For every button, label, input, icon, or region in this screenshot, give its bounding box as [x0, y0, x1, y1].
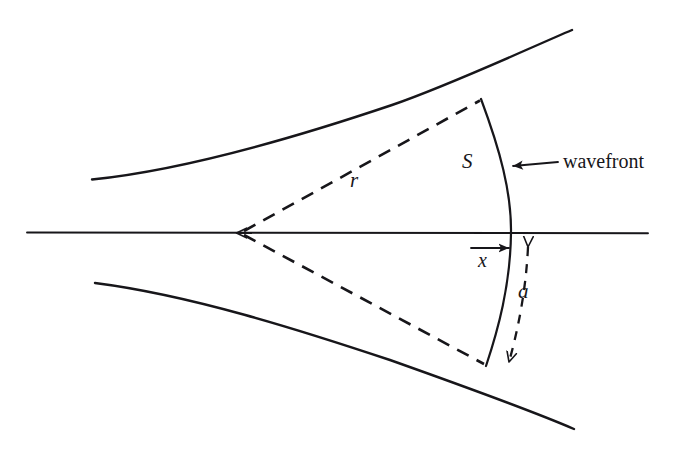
wavefront-pointer-arrow: [513, 162, 558, 166]
wavefront-text-label: wavefront: [563, 151, 644, 171]
aperture-label-a: a: [518, 281, 529, 302]
optical-axis-line: [27, 233, 648, 234]
aperture-a-arrow: [509, 247, 528, 362]
optical-axis-group: [27, 233, 648, 234]
radius-label-r: r: [350, 170, 358, 191]
wavefront-diagram-svg: [0, 0, 677, 454]
sagitta-label-x: x: [478, 250, 487, 270]
radius-line-lower: [244, 235, 484, 364]
radius-line-upper: [244, 101, 480, 232]
arc-length-label-S: S: [462, 151, 473, 172]
